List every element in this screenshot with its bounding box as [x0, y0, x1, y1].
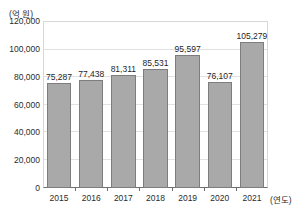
x-axis-tick — [172, 188, 173, 191]
x-axis-tick-label: 2019 — [178, 193, 197, 203]
x-axis-tick — [204, 188, 205, 191]
y-axis-tick-label: 20,000 — [0, 155, 40, 165]
x-axis-tick-label: 2020 — [210, 193, 229, 203]
bar[interactable]: 77,438 — [79, 80, 103, 188]
bar-value-label: 75,287 — [46, 72, 72, 82]
bar-value-label: 77,438 — [78, 69, 104, 79]
x-axis-tick-label: 2015 — [50, 193, 69, 203]
x-axis-ticks — [43, 188, 268, 192]
bar-slot: 75,287 — [43, 21, 75, 188]
bars-layer: 75,28777,43881,31185,53195,59776,107105,… — [43, 21, 268, 188]
bar[interactable]: 95,597 — [175, 55, 199, 188]
x-axis-tick — [107, 188, 108, 191]
x-axis-tick — [139, 188, 140, 191]
x-axis-tick — [75, 188, 76, 191]
bar-slot: 95,597 — [172, 21, 204, 188]
bar-slot: 105,279 — [236, 21, 268, 188]
bar[interactable]: 75,287 — [47, 83, 71, 188]
bar[interactable]: 76,107 — [208, 82, 232, 188]
x-axis-unit-label: (연도) — [270, 193, 292, 205]
bar-slot: 81,311 — [107, 21, 139, 188]
y-axis-tick-label: 40,000 — [0, 127, 40, 137]
bar-value-label: 85,531 — [142, 58, 168, 68]
y-axis-tick-label: 0 — [0, 183, 40, 193]
bar-value-label: 105,279 — [237, 31, 268, 41]
y-axis-tick-label: 60,000 — [0, 100, 40, 110]
x-axis-tick — [236, 188, 237, 191]
y-axis-tick-label: 80,000 — [0, 72, 40, 82]
bar-slot: 76,107 — [204, 21, 236, 188]
x-axis-tick-label: 2021 — [242, 193, 261, 203]
bar-slot: 85,531 — [139, 21, 171, 188]
y-axis-tick-label: 120,000 — [0, 16, 40, 26]
bar-value-label: 76,107 — [207, 71, 233, 81]
bar[interactable]: 85,531 — [143, 69, 167, 188]
bar-value-label: 95,597 — [175, 44, 201, 54]
bar[interactable]: 105,279 — [240, 42, 264, 189]
bar[interactable]: 81,311 — [111, 75, 135, 188]
x-axis-tick-label: 2016 — [82, 193, 101, 203]
bar-slot: 77,438 — [75, 21, 107, 188]
y-axis-tick-labels: 020,00040,00060,00080,000100,000120,000 — [0, 21, 40, 188]
bar-value-label: 81,311 — [111, 64, 136, 74]
y-axis-tick-label: 100,000 — [0, 44, 40, 54]
x-axis-tick-label: 2017 — [114, 193, 133, 203]
x-axis-tick-labels: 2015201620172018201920202021 — [43, 193, 268, 207]
bar-chart-figure: (억 원) 020,00040,00060,00080,000100,00012… — [0, 0, 299, 219]
x-axis-tick-label: 2018 — [146, 193, 165, 203]
